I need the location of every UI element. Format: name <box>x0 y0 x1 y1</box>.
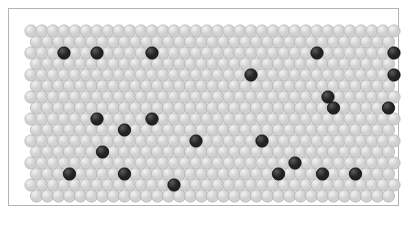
light-lattice-sphere <box>151 102 163 114</box>
light-lattice-sphere <box>217 80 229 92</box>
light-lattice-sphere <box>74 124 86 136</box>
light-lattice-sphere <box>179 47 191 59</box>
light-lattice-sphere <box>206 80 218 92</box>
light-lattice-sphere <box>107 146 119 158</box>
light-lattice-sphere <box>41 36 53 48</box>
light-lattice-sphere <box>245 25 257 37</box>
light-lattice-sphere <box>184 36 196 48</box>
light-lattice-sphere <box>217 36 229 48</box>
light-lattice-sphere <box>52 146 64 158</box>
light-lattice-sphere <box>30 36 42 48</box>
dark-lattice-sphere <box>388 47 400 59</box>
light-lattice-sphere <box>245 91 257 103</box>
light-lattice-sphere <box>146 69 158 81</box>
light-lattice-sphere <box>157 25 169 37</box>
light-lattice-sphere <box>162 124 174 136</box>
dark-lattice-sphere <box>118 124 130 136</box>
light-lattice-sphere <box>157 135 169 147</box>
light-lattice-sphere <box>69 47 81 59</box>
light-lattice-sphere <box>124 157 136 169</box>
light-lattice-sphere <box>250 146 262 158</box>
light-lattice-sphere <box>212 179 224 191</box>
light-lattice-sphere <box>41 80 53 92</box>
light-lattice-sphere <box>124 47 136 59</box>
light-lattice-sphere <box>294 36 306 48</box>
light-lattice-sphere <box>41 58 53 70</box>
light-lattice-sphere <box>173 80 185 92</box>
light-lattice-sphere <box>338 190 350 202</box>
light-lattice-sphere <box>344 157 356 169</box>
light-lattice-sphere <box>179 25 191 37</box>
light-lattice-sphere <box>267 157 279 169</box>
light-lattice-sphere <box>41 146 53 158</box>
light-lattice-sphere <box>179 179 191 191</box>
light-lattice-sphere <box>80 157 92 169</box>
light-lattice-sphere <box>305 102 317 114</box>
light-lattice-sphere <box>135 135 147 147</box>
light-lattice-sphere <box>223 25 235 37</box>
light-lattice-sphere <box>58 135 70 147</box>
light-lattice-sphere <box>289 91 301 103</box>
light-lattice-sphere <box>267 91 279 103</box>
light-lattice-sphere <box>234 113 246 125</box>
light-lattice-sphere <box>85 146 97 158</box>
dark-lattice-sphere <box>289 157 301 169</box>
light-lattice-sphere <box>124 135 136 147</box>
light-lattice-sphere <box>223 179 235 191</box>
light-lattice-sphere <box>322 179 334 191</box>
light-lattice-sphere <box>316 58 328 70</box>
light-lattice-sphere <box>157 157 169 169</box>
light-lattice-sphere <box>228 124 240 136</box>
light-lattice-sphere <box>173 168 185 180</box>
light-lattice-sphere <box>360 102 372 114</box>
light-lattice-sphere <box>113 69 125 81</box>
light-lattice-sphere <box>168 135 180 147</box>
light-lattice-sphere <box>41 168 53 180</box>
light-lattice-sphere <box>113 179 125 191</box>
light-lattice-sphere <box>300 113 312 125</box>
light-lattice-sphere <box>349 190 361 202</box>
light-lattice-sphere <box>63 146 75 158</box>
light-lattice-sphere <box>327 168 339 180</box>
light-lattice-sphere <box>91 179 103 191</box>
light-lattice-sphere <box>250 58 262 70</box>
light-lattice-sphere <box>25 113 37 125</box>
light-lattice-sphere <box>349 58 361 70</box>
light-lattice-sphere <box>190 69 202 81</box>
light-lattice-sphere <box>30 168 42 180</box>
light-lattice-sphere <box>388 91 400 103</box>
light-lattice-sphere <box>63 36 75 48</box>
light-lattice-sphere <box>322 25 334 37</box>
light-lattice-sphere <box>289 113 301 125</box>
light-lattice-sphere <box>371 190 383 202</box>
light-lattice-sphere <box>118 102 130 114</box>
light-lattice-sphere <box>344 113 356 125</box>
light-lattice-sphere <box>25 47 37 59</box>
light-lattice-sphere <box>316 36 328 48</box>
light-lattice-sphere <box>239 80 251 92</box>
light-lattice-sphere <box>179 157 191 169</box>
light-lattice-sphere <box>190 25 202 37</box>
light-lattice-sphere <box>377 157 389 169</box>
dark-lattice-sphere <box>91 47 103 59</box>
light-lattice-sphere <box>338 36 350 48</box>
light-lattice-sphere <box>382 146 394 158</box>
light-lattice-sphere <box>206 102 218 114</box>
light-lattice-sphere <box>74 36 86 48</box>
light-lattice-sphere <box>333 135 345 147</box>
light-lattice-sphere <box>184 80 196 92</box>
light-lattice-sphere <box>102 91 114 103</box>
light-lattice-sphere <box>36 47 48 59</box>
light-lattice-sphere <box>47 25 59 37</box>
light-lattice-sphere <box>239 168 251 180</box>
light-lattice-sphere <box>162 80 174 92</box>
light-lattice-sphere <box>217 124 229 136</box>
light-lattice-sphere <box>366 113 378 125</box>
light-lattice-sphere <box>327 190 339 202</box>
light-lattice-sphere <box>261 58 273 70</box>
light-lattice-sphere <box>300 157 312 169</box>
light-lattice-sphere <box>250 190 262 202</box>
light-lattice-sphere <box>245 47 257 59</box>
light-lattice-sphere <box>261 102 273 114</box>
light-lattice-sphere <box>146 91 158 103</box>
